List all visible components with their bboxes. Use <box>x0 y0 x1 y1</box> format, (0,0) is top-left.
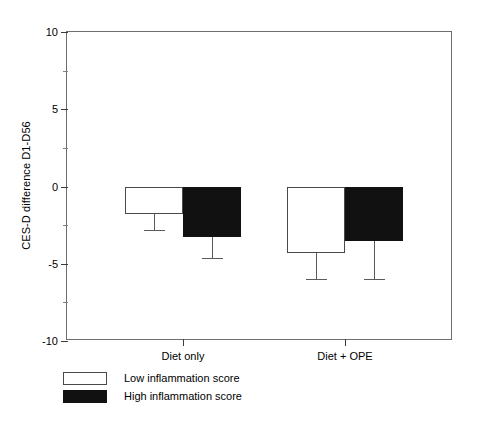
error-bar-cap-1-0 <box>306 279 327 280</box>
x-tick-label-1: Diet + OPE <box>317 350 372 362</box>
error-bar-stem-1-1 <box>374 241 375 280</box>
y-minor-tick <box>63 302 68 303</box>
x-tick-mark <box>183 339 184 346</box>
x-tick-mark <box>345 339 346 346</box>
error-bar-stem-0-0 <box>154 214 155 229</box>
legend-label: High inflammation score <box>124 390 242 402</box>
bar-0-0 <box>125 187 183 215</box>
y-minor-tick <box>63 71 68 72</box>
y-tick-mark <box>61 264 68 265</box>
chart-legend: Low inflammation scoreHigh inflammation … <box>63 371 242 403</box>
bar-1-0 <box>287 187 345 253</box>
error-bar-stem-0-1 <box>212 237 213 257</box>
error-bar-cap-0-0 <box>144 230 165 231</box>
y-tick-label: 10 <box>46 26 58 38</box>
y-tick-label: 5 <box>52 103 58 115</box>
chart-figure: CES-D difference D1-D56 1050-5-10 Diet o… <box>0 0 477 433</box>
legend-item-1: High inflammation score <box>63 389 242 403</box>
legend-swatch-white <box>63 372 107 385</box>
bar-1-1 <box>345 187 403 241</box>
legend-label: Low inflammation score <box>124 372 240 384</box>
y-minor-tick <box>63 225 68 226</box>
y-axis-label: CES-D difference D1-D56 <box>17 31 35 340</box>
y-tick-mark <box>61 32 68 33</box>
error-bar-cap-0-1 <box>202 258 223 259</box>
error-bar-cap-1-1 <box>364 279 385 280</box>
error-bar-stem-1-0 <box>316 253 317 279</box>
bar-0-1 <box>183 187 241 238</box>
y-tick-label: 0 <box>52 181 58 193</box>
legend-swatch-black <box>63 390 107 403</box>
legend-item-0: Low inflammation score <box>63 371 242 385</box>
y-minor-tick <box>63 148 68 149</box>
y-tick-mark <box>61 109 68 110</box>
plot-area: 1050-5-10 Diet onlyDiet + OPE <box>66 31 452 340</box>
y-tick-mark <box>61 187 68 188</box>
y-tick-label: -5 <box>48 258 58 270</box>
y-tick-label: -10 <box>42 335 58 347</box>
y-tick-mark <box>61 341 68 342</box>
x-tick-label-0: Diet only <box>162 350 205 362</box>
